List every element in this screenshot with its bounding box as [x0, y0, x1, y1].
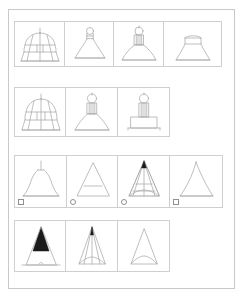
- shape-cell-trapezoid-bell-outline[interactable]: [164, 22, 221, 66]
- shape-cell-dome-lamp-outline[interactable]: [114, 22, 164, 66]
- marker-strip: [170, 195, 222, 207]
- shape-cell-spire-dome-outline[interactable]: [15, 156, 67, 207]
- ribbed-lamp-drawing: [66, 88, 117, 136]
- marker-circle: [121, 199, 127, 205]
- shape-row-4: [14, 220, 170, 272]
- figure-canvas: [0, 0, 245, 299]
- marker-strip: [15, 195, 66, 207]
- shape-cell-pagoda-bell-outline[interactable]: [15, 22, 65, 66]
- shape-cell-filled-spire-triangle[interactable]: [15, 221, 66, 271]
- dome-lamp-drawing: [114, 22, 164, 66]
- marker-square: [173, 199, 179, 205]
- shape-cell-pedestal-lamp-outline[interactable]: [118, 88, 169, 136]
- fanned-triangle-drawing: [66, 221, 117, 271]
- marker-circle: [70, 199, 76, 205]
- pedestal-lamp-drawing: [118, 88, 169, 136]
- shape-cell-fanned-triangle-outline[interactable]: [66, 221, 117, 271]
- marker-square: [18, 199, 24, 205]
- shape-cell-flask-bell-outline[interactable]: [65, 22, 115, 66]
- arched-base-triangle-drawing: [118, 221, 169, 271]
- shape-row-3: [14, 155, 223, 208]
- shape-cell-triangle-with-crossbar[interactable]: [67, 156, 119, 207]
- trapezoid-bell-drawing: [164, 22, 221, 66]
- shape-cell-arched-base-triangle[interactable]: [118, 221, 169, 271]
- pagoda-bell-drawing-2: [15, 88, 66, 136]
- marker-strip: [118, 195, 169, 207]
- shape-cell-plain-triangle-outline[interactable]: [170, 156, 222, 207]
- shape-cell-pagoda-bell-outline-2[interactable]: [15, 88, 66, 136]
- shape-cell-ribbed-lamp-outline[interactable]: [66, 88, 117, 136]
- marker-strip: [67, 195, 118, 207]
- flask-bell-drawing: [65, 22, 115, 66]
- shape-row-1: [14, 21, 222, 67]
- filled-spire-triangle-drawing: [15, 221, 66, 271]
- shape-row-2: [14, 87, 170, 137]
- shape-cell-nested-triangle-outline[interactable]: [118, 156, 170, 207]
- pagoda-bell-drawing: [15, 22, 65, 66]
